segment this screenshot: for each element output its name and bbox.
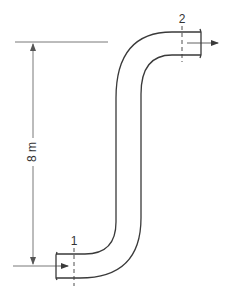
pipe-diagram: 8 m 1 2 <box>0 0 230 298</box>
pipe-outer-wall <box>56 32 201 254</box>
dimension-arrow-up-icon <box>30 43 36 51</box>
outlet-end-cap <box>200 29 201 58</box>
section-1-label: 1 <box>71 234 78 248</box>
pipe-inner-wall <box>56 55 201 278</box>
section-2-label: 2 <box>179 12 186 26</box>
dimension-arrow-down-icon <box>30 257 36 265</box>
elevation-label: 8 m <box>25 142 39 162</box>
